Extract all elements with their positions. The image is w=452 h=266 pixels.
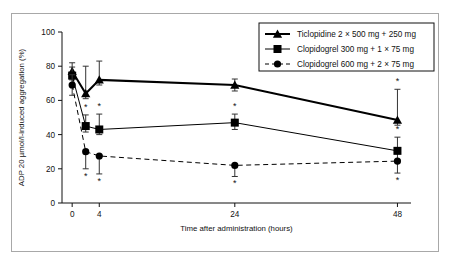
significance-star: * [84, 102, 88, 112]
x-tick-label: 0 [70, 210, 75, 219]
marker-square [95, 125, 103, 133]
marker-circle [82, 148, 89, 155]
chart-legend: Ticlopidine 2 × 500 mg + 250 mgClopidogr… [259, 23, 434, 71]
series-3: **** [69, 75, 401, 189]
significance-star: * [98, 176, 102, 186]
significance-star: * [233, 178, 237, 188]
legend-marker-circle [274, 60, 281, 67]
marker-square [82, 122, 90, 130]
data-series-group: ********* [68, 61, 402, 188]
legend-item-label: Clopidogrel 300 mg + 1 × 75 mg [297, 45, 414, 54]
significance-star: * [84, 171, 88, 181]
significance-star: * [396, 76, 400, 86]
significance-star: * [98, 101, 102, 111]
significance-star: * [233, 101, 237, 111]
marker-circle [69, 81, 76, 88]
significance-star: * [396, 175, 400, 185]
figure-container: 020406080100 042448 ********* Ticlopidin… [0, 0, 452, 266]
x-axis-title: Time after administration (hours) [180, 224, 293, 233]
marker-circle [231, 162, 238, 169]
y-axis: 020406080100 [41, 28, 62, 208]
legend-item-label: Clopidogrel 600 mg + 2 × 75 mg [297, 60, 414, 69]
marker-circle [96, 152, 103, 159]
y-tick-label: 40 [46, 131, 56, 140]
y-tick-label: 20 [46, 165, 56, 174]
y-axis-title: ADP 20 µmol/l-induced aggregation (%) [17, 48, 26, 186]
chart-canvas: 020406080100 042448 ********* Ticlopidin… [0, 0, 452, 266]
x-tick-label: 48 [393, 210, 403, 219]
x-axis: 042448 [62, 203, 411, 219]
legend-marker-square [274, 45, 282, 53]
x-tick-label: 24 [230, 210, 240, 219]
y-tick-label: 60 [46, 96, 56, 105]
y-tick-label: 100 [41, 28, 55, 37]
y-tick-label: 80 [46, 62, 56, 71]
marker-square [393, 147, 401, 155]
marker-square [231, 119, 239, 127]
legend-item-label: Ticlopidine 2 × 500 mg + 250 mg [297, 30, 416, 39]
marker-circle [394, 158, 401, 165]
y-tick-label: 0 [50, 199, 55, 208]
x-tick-label: 4 [97, 210, 102, 219]
significance-star: * [396, 124, 400, 134]
